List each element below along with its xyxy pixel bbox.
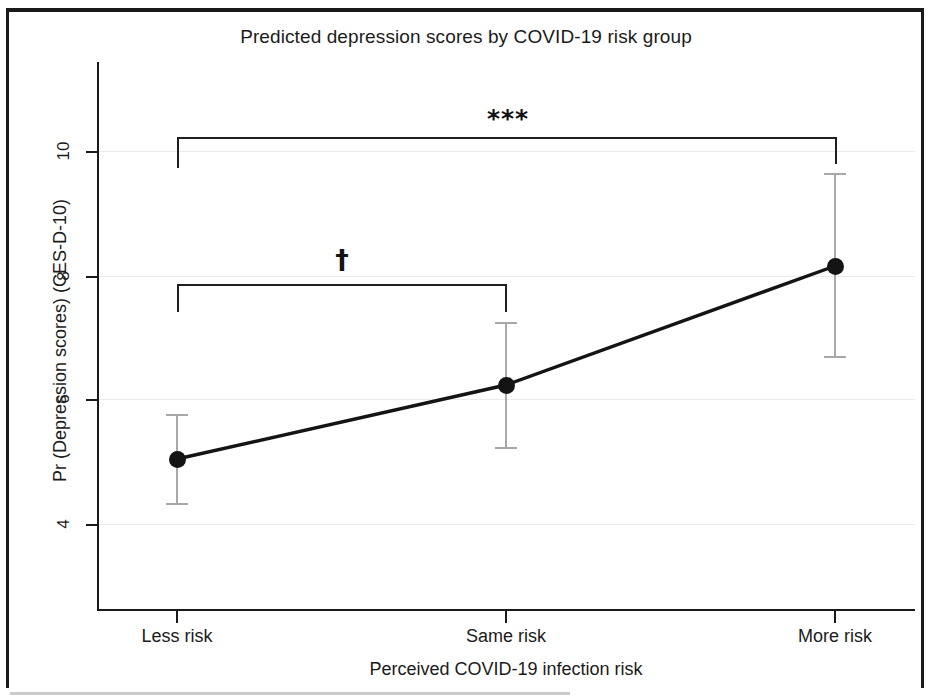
data-point-more-risk[interactable] bbox=[827, 258, 844, 275]
errorbar-cap-upper-less-risk bbox=[166, 414, 188, 416]
significance-bracket-outer-leg-left bbox=[177, 137, 179, 168]
errorbar-cap-lower-more-risk bbox=[824, 356, 846, 358]
data-point-same-risk[interactable] bbox=[498, 377, 515, 394]
errorbar-cap-upper-more-risk bbox=[824, 173, 846, 175]
significance-label-inner: † bbox=[282, 244, 402, 275]
significance-bracket-outer-bar bbox=[177, 137, 836, 139]
significance-bracket-inner-leg-right bbox=[505, 284, 507, 312]
errorbar-cap-upper-same-risk bbox=[495, 322, 517, 324]
errorbar-cap-lower-less-risk bbox=[166, 503, 188, 505]
significance-label-outer: *** bbox=[448, 104, 568, 133]
chart-plot-area: Predicted depression scores by COVID-19 … bbox=[0, 0, 932, 700]
significance-bracket-inner-bar bbox=[177, 284, 507, 286]
data-point-less-risk[interactable] bbox=[169, 451, 186, 468]
figure-root: Predicted depression scores by COVID-19 … bbox=[0, 0, 932, 700]
significance-bracket-outer-leg-right bbox=[835, 137, 837, 164]
errorbar-cap-lower-same-risk bbox=[495, 447, 517, 449]
significance-bracket-inner-leg-left bbox=[177, 284, 179, 312]
